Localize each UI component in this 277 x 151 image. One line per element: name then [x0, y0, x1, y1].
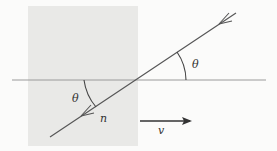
- velocity-arrow-icon: [140, 117, 192, 125]
- theta-upper-label: θ: [192, 58, 199, 71]
- diagram-canvas: θ θ n v: [0, 0, 277, 151]
- velocity-label: v: [158, 124, 165, 137]
- refractive-index-label: n: [100, 112, 107, 125]
- ray-arrowhead-upper-icon: [219, 13, 232, 24]
- theta-lower-label: θ: [72, 92, 79, 105]
- medium-block: [28, 6, 138, 146]
- angle-arc-upper: [177, 52, 186, 80]
